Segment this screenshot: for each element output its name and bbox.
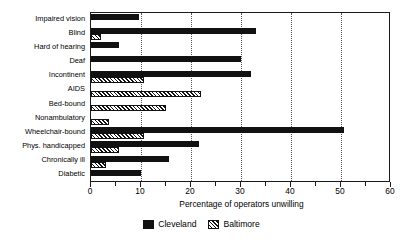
x-tick-label-60: 60 [385,186,394,196]
bar-cleveland [91,14,139,20]
category-axis-labels: Impaired visionBlindHard of hearingDeafI… [0,12,88,182]
bar-baltimore [91,162,106,168]
legend-item-cleveland: Cleveland [143,219,196,229]
x-tick-label-50: 50 [335,186,344,196]
bar-row [91,126,389,140]
category-label: Wheelchair-bound [25,128,85,136]
x-axis-title: Percentage of operators unwilling [0,199,403,209]
bar-row [91,27,389,41]
legend-label-baltimore: Baltimore [223,219,259,229]
x-axis-tick-labels: 0102030405060 [0,186,403,198]
category-label: Phys. handicapped [22,142,85,150]
bar-baltimore [91,133,144,139]
category-label: Chronically ill [41,156,85,164]
bar-row [91,112,389,126]
legend-label-cleveland: Cleveland [158,219,196,229]
bar-row [91,70,389,84]
chart-container: Impaired visionBlindHard of hearingDeafI… [0,0,403,245]
bar-baltimore [91,77,144,83]
bar-cleveland [91,170,141,176]
category-label: Impaired vision [35,15,85,23]
bar-baltimore [91,34,101,40]
plot-area [90,12,390,182]
category-label: Deaf [69,57,85,65]
x-tick-label-10: 10 [135,186,144,196]
bar-row [91,169,389,183]
solid-black-square-icon [143,220,154,229]
bar-row [91,98,389,112]
x-tick-label-30: 30 [235,186,244,196]
category-label: Bed-bound [49,100,85,108]
bar-baltimore [91,119,109,125]
bar-baltimore [91,105,166,111]
bar-row [91,155,389,169]
bar-row [91,13,389,27]
hatched-square-icon [208,220,219,229]
legend-item-baltimore: Baltimore [208,219,259,229]
x-tick-label-20: 20 [185,186,194,196]
category-label: AIDS [68,85,85,93]
category-label: Diabetic [58,170,85,178]
chart-legend: Cleveland Baltimore [0,219,403,229]
bar-cleveland [91,42,119,48]
bar-cleveland [91,56,241,62]
x-axis-title-text: Percentage of operators unwilling [179,199,303,209]
bar-row [91,56,389,70]
x-tick-label-0: 0 [88,186,93,196]
category-label: Hard of hearing [34,43,85,51]
category-label: Blind [69,29,85,37]
bar-rows [91,13,389,181]
bar-row [91,41,389,55]
category-label: Incontinent [49,71,85,79]
bar-row [91,141,389,155]
bar-cleveland [91,28,256,34]
bar-baltimore [91,91,201,97]
x-tick-label-40: 40 [285,186,294,196]
category-label: Nonambulatory [35,114,85,122]
bar-baltimore [91,147,119,153]
bar-row [91,84,389,98]
